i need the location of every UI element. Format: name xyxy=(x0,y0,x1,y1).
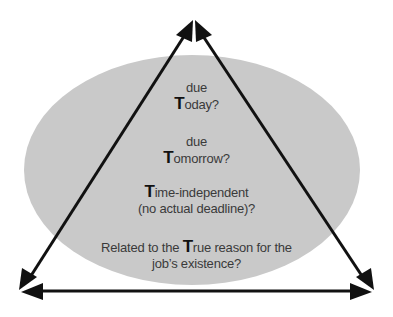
diagram-canvas: due Today? due Tomorrow? Time-independen… xyxy=(0,0,393,317)
question-today-line2: Today? xyxy=(0,96,393,113)
question-labels: due Today? due Tomorrow? Time-independen… xyxy=(0,0,393,317)
question-time-independent-line1: Time-independent xyxy=(0,184,393,201)
question-true-reason: Related to the True reason for the job’s… xyxy=(0,239,393,272)
question-true-reason-line2: job’s existence? xyxy=(0,256,393,272)
emphasis-t: T xyxy=(163,148,173,167)
question-time-independent-line2: (no actual deadline)? xyxy=(0,201,393,217)
emphasis-t: T xyxy=(174,94,184,113)
question-today: due Today? xyxy=(0,80,393,113)
question-time-independent: Time-independent (no actual deadline)? xyxy=(0,184,393,217)
emphasis-t: T xyxy=(144,182,154,201)
emphasis-t: T xyxy=(183,237,193,256)
question-tomorrow-line2: Tomorrow? xyxy=(0,150,393,167)
question-tomorrow: due Tomorrow? xyxy=(0,134,393,167)
question-today-line1: due xyxy=(0,80,393,96)
question-tomorrow-line1: due xyxy=(0,134,393,150)
question-true-reason-line1: Related to the True reason for the xyxy=(0,239,393,256)
